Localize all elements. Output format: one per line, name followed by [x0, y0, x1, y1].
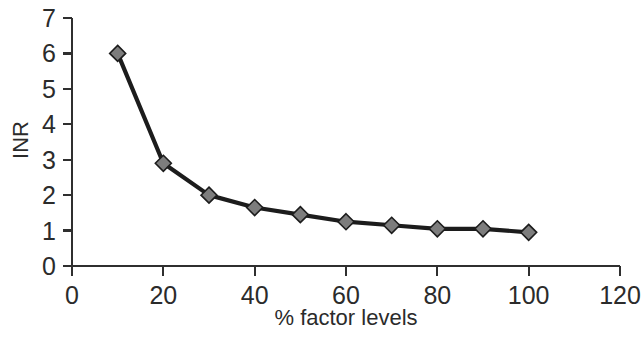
x-tick-label-100: 100 [508, 281, 550, 309]
y-tick-label-3: 3 [42, 146, 56, 174]
x-tick-label-0: 0 [65, 281, 79, 309]
x-tick-label-80: 80 [423, 281, 451, 309]
y-tick-label-1: 1 [42, 217, 56, 245]
x-tick-label-40: 40 [241, 281, 269, 309]
y-tick-label-5: 5 [42, 75, 56, 103]
y-tick-label-4: 4 [42, 110, 56, 138]
x-axis-title: % factor levels [274, 305, 417, 330]
x-tick-label-20: 20 [149, 281, 177, 309]
y-tick-label-7: 7 [42, 4, 56, 32]
line-chart: 01234567 INR 020406080100120 % factor le… [0, 0, 643, 340]
y-tick-label-2: 2 [42, 181, 56, 209]
y-tick-label-0: 0 [42, 252, 56, 280]
chart-container: 01234567 INR 020406080100120 % factor le… [0, 0, 643, 340]
y-axis-title: INR [8, 121, 33, 159]
y-tick-label-6: 6 [42, 39, 56, 67]
x-tick-label-120: 120 [599, 281, 641, 309]
